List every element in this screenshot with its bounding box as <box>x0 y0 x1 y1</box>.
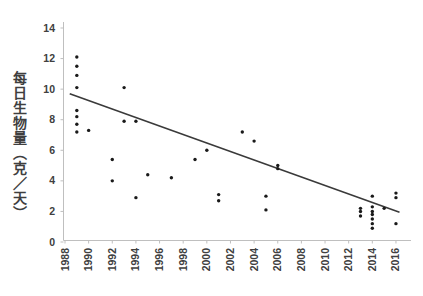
data-point <box>87 129 90 132</box>
x-tick-label: 2000 <box>200 248 212 272</box>
data-point <box>75 74 78 77</box>
data-point <box>359 210 362 213</box>
x-tick-label: 2004 <box>248 248 260 272</box>
y-tick-label: 2 <box>49 205 55 217</box>
data-point <box>122 86 125 89</box>
data-point <box>241 130 244 133</box>
x-tick-label: 1998 <box>177 248 189 272</box>
scatter-chart: 每日生物量（克／天） 02468101214198819901992199419… <box>0 0 423 296</box>
y-axis-label: 每日生物量（克／天） <box>8 60 30 232</box>
x-tick-label: 1992 <box>106 248 118 272</box>
data-point <box>359 214 362 217</box>
data-point <box>276 167 279 170</box>
data-point <box>217 193 220 196</box>
x-tick-label: 2008 <box>295 248 307 272</box>
data-point <box>264 194 267 197</box>
data-point <box>75 123 78 126</box>
data-point <box>382 207 385 210</box>
data-point <box>276 164 279 167</box>
x-tick-label: 1988 <box>59 248 71 272</box>
data-point <box>394 196 397 199</box>
data-point <box>371 213 374 216</box>
x-tick-label: 2012 <box>342 248 354 272</box>
data-point <box>371 222 374 225</box>
data-point <box>75 130 78 133</box>
data-point <box>75 86 78 89</box>
trend-line <box>70 94 400 212</box>
data-point <box>394 222 397 225</box>
data-point <box>252 139 255 142</box>
x-tick-label: 2010 <box>319 248 331 272</box>
data-point <box>134 120 137 123</box>
x-tick-label: 1996 <box>153 248 165 272</box>
data-point <box>371 210 374 213</box>
data-point <box>371 194 374 197</box>
y-tick-label: 10 <box>43 83 55 95</box>
data-point <box>394 191 397 194</box>
data-point <box>75 55 78 58</box>
data-point <box>75 115 78 118</box>
x-tick-label: 1994 <box>129 248 141 272</box>
data-point <box>134 196 137 199</box>
data-point <box>193 158 196 161</box>
y-tick-label: 8 <box>49 113 55 125</box>
x-tick-label: 2002 <box>224 248 236 272</box>
x-tick-label: 2006 <box>271 248 283 272</box>
data-point <box>371 205 374 208</box>
data-point <box>371 217 374 220</box>
data-point <box>146 173 149 176</box>
data-point <box>217 199 220 202</box>
y-tick-label: 4 <box>49 174 55 186</box>
data-point <box>75 65 78 68</box>
data-point <box>111 179 114 182</box>
data-point <box>264 208 267 211</box>
data-point <box>371 227 374 230</box>
y-tick-label: 0 <box>49 236 55 248</box>
data-point <box>205 149 208 152</box>
x-tick-label: 2016 <box>389 248 401 272</box>
data-point <box>111 158 114 161</box>
x-tick-label: 2014 <box>366 248 378 272</box>
plot-area: 0246810121419881990199219941996199820002… <box>0 0 423 296</box>
data-point <box>75 109 78 112</box>
y-tick-label: 6 <box>49 144 55 156</box>
x-tick-label: 1990 <box>82 248 94 272</box>
data-point <box>122 120 125 123</box>
data-point <box>359 207 362 210</box>
y-tick-label: 14 <box>43 22 55 34</box>
y-tick-label: 12 <box>43 52 55 64</box>
data-point <box>170 176 173 179</box>
